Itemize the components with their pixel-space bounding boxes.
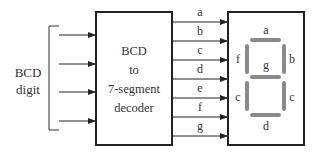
output-label-g: g [190, 120, 210, 133]
input-label: BCD digit [8, 64, 48, 98]
decoder-label: BCD to 7-segment decoder [97, 42, 171, 118]
output-label-c: c [190, 44, 210, 57]
segment-label-b: b [287, 53, 297, 66]
segment-label-g: g [256, 59, 276, 72]
output-label-a: a [190, 6, 210, 19]
output-label-f: f [190, 101, 210, 114]
input-arrows [59, 35, 96, 121]
segment-label-c: c [287, 91, 297, 104]
output-label-b: b [190, 25, 210, 38]
output-label-d: d [190, 63, 210, 76]
segment-label-f: f [233, 53, 243, 66]
output-label-e: e [190, 82, 210, 95]
input-bracket [49, 26, 59, 130]
segment-label-a: a [256, 24, 276, 37]
segment-label-e: c [233, 91, 243, 104]
segment-label-d: d [256, 120, 276, 133]
